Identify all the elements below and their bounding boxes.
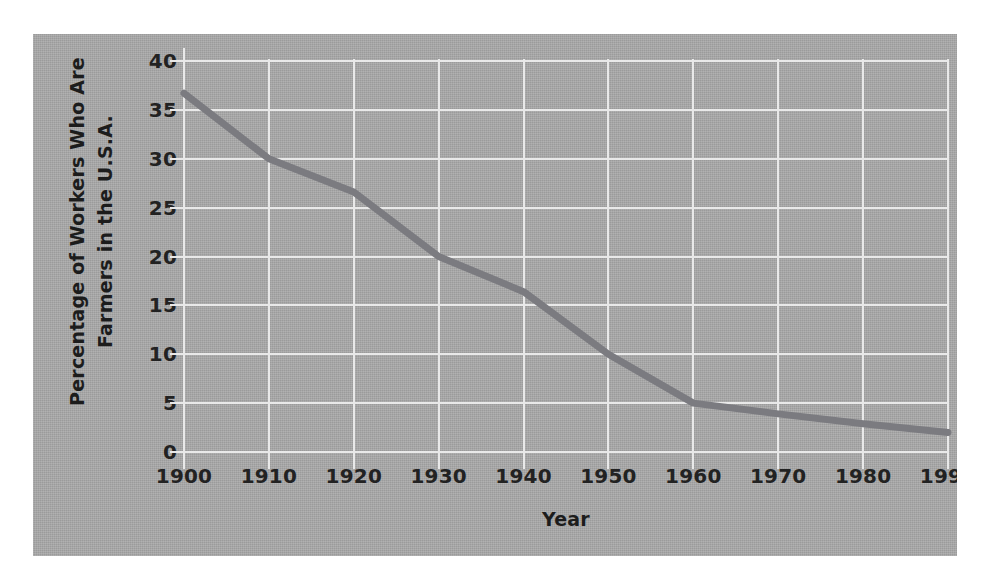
y-axis-tick-label: 35	[107, 100, 177, 120]
chart-figure: Percentage of Workers Who Are Farmers in…	[0, 0, 993, 584]
y-axis-title-line-1: Percentage of Workers Who Are	[64, 34, 92, 452]
y-axis-tick-labels: 40 35 30 25 20 15 10 5 0	[97, 61, 177, 452]
x-axis-title: Year	[184, 508, 948, 530]
chart-plot-area	[184, 61, 948, 452]
y-axis-tick-label: 20	[107, 247, 177, 267]
chart-plot-panel: Percentage of Workers Who Are Farmers in…	[33, 34, 957, 556]
y-axis-tick-label: 0	[107, 442, 177, 462]
y-axis-tick-label: 5	[107, 393, 177, 413]
data-series-line	[184, 61, 948, 452]
x-axis-tick-label: 1990	[888, 466, 957, 486]
y-axis-tick-label: 15	[107, 295, 177, 315]
y-axis-tick-label: 25	[107, 198, 177, 218]
y-axis-tick-label: 40	[107, 51, 177, 71]
y-axis-tick-label: 10	[107, 344, 177, 364]
x-axis-tick-labels: 1900 1910 1920 1930 1940 1950 1960 1970 …	[184, 466, 948, 496]
y-axis-tick-label: 30	[107, 149, 177, 169]
